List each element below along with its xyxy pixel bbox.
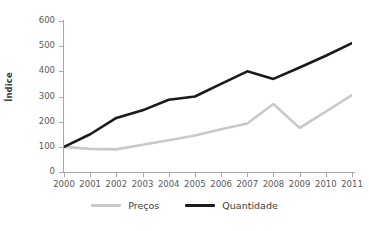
y-axis-tick-label: 600 bbox=[21, 15, 55, 25]
y-axis-tick-label: 0 bbox=[21, 166, 55, 176]
plot-area bbox=[64, 21, 352, 172]
legend-item-preos[interactable]: Preços bbox=[91, 200, 159, 211]
x-axis-tick bbox=[326, 173, 327, 177]
y-axis-tick-label: 500 bbox=[21, 40, 55, 50]
legend-label: Preços bbox=[128, 200, 159, 211]
x-axis-tick bbox=[169, 173, 170, 177]
legend-label: Quantidade bbox=[222, 200, 277, 211]
legend-swatch-icon bbox=[91, 204, 121, 207]
y-axis-tick-label: 200 bbox=[21, 116, 55, 126]
x-axis-tick bbox=[90, 173, 91, 177]
series-lines bbox=[64, 21, 352, 172]
x-axis-line bbox=[63, 172, 355, 173]
x-axis-tick bbox=[273, 173, 274, 177]
y-axis-tick-label: 300 bbox=[21, 91, 55, 101]
x-axis-tick bbox=[300, 173, 301, 177]
y-axis-tick-label: 100 bbox=[21, 141, 55, 151]
y-axis-tick-label: 400 bbox=[21, 65, 55, 75]
line-chart: Índice 0100200300400500600 2000200120022… bbox=[0, 0, 369, 231]
x-axis-tick bbox=[221, 173, 222, 177]
x-axis-tick bbox=[143, 173, 144, 177]
legend-item-quantidade[interactable]: Quantidade bbox=[185, 200, 277, 211]
x-axis-tick-label: 2011 bbox=[337, 179, 367, 189]
legend-swatch-icon bbox=[185, 204, 215, 207]
y-axis-title: Índice bbox=[4, 59, 14, 115]
chart-legend: PreçosQuantidade bbox=[0, 200, 369, 211]
x-axis-tick bbox=[116, 173, 117, 177]
cropped-chart-title bbox=[0, 0, 369, 5]
x-axis-tick bbox=[352, 173, 353, 177]
x-axis-tick bbox=[247, 173, 248, 177]
x-axis-tick bbox=[64, 173, 65, 177]
x-axis-tick bbox=[195, 173, 196, 177]
